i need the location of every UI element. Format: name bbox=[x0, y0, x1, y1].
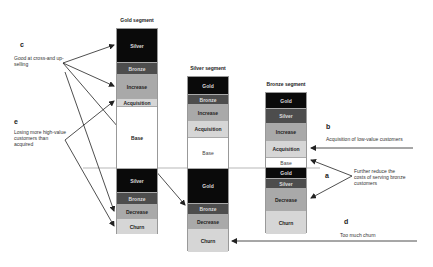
annotation-b-letter: b bbox=[326, 123, 330, 130]
annotation-d-text: Too much churn bbox=[340, 232, 376, 238]
block-churn: Churn bbox=[266, 211, 306, 234]
silver-segment-title: Silver segment bbox=[178, 65, 238, 71]
annotation-e-text: Losing more high-value customers than ac… bbox=[14, 129, 66, 147]
block-bronze: Bronze bbox=[188, 95, 228, 105]
annotation-a-letter: a bbox=[325, 172, 329, 179]
block-silver-lost: Silver bbox=[266, 179, 306, 189]
bronze-segment-title: Bronze segment bbox=[256, 81, 316, 87]
block-silver: Silver bbox=[117, 29, 157, 63]
block-gold: Gold bbox=[266, 93, 306, 109]
annotation-c-letter: c bbox=[20, 41, 24, 48]
silver-segment-column: Gold Bronze Increase Acquisition Base Go… bbox=[187, 76, 229, 251]
block-bronze-lost: Bronze bbox=[117, 193, 157, 205]
block-acquisition: Acquisition bbox=[188, 121, 228, 138]
block-bronze: Bronze bbox=[117, 63, 157, 75]
block-gold: Gold bbox=[188, 77, 228, 95]
bronze-segment-column: Gold Silver Increase Acquisition Base Go… bbox=[265, 92, 307, 233]
block-churn: Churn bbox=[188, 229, 228, 252]
block-base: Base bbox=[188, 138, 228, 169]
block-decrease: Decrease bbox=[266, 189, 306, 211]
annotation-b-text: Acquisition of low-value customers bbox=[326, 136, 433, 142]
annotation-c-text: Good at cross-and up-selling bbox=[14, 55, 66, 67]
annotation-d-letter: d bbox=[344, 218, 348, 225]
gold-segment-title: Gold segment bbox=[107, 17, 167, 23]
block-base: Base bbox=[266, 158, 306, 168]
customer-segment-flow-diagram: Gold segment Silver Bronze Increase Acqu… bbox=[0, 0, 433, 267]
block-bronze-lost: Bronze bbox=[188, 204, 228, 215]
block-gold-lost: Gold bbox=[188, 169, 228, 204]
block-silver: Silver bbox=[266, 109, 306, 124]
block-increase: Increase bbox=[266, 124, 306, 141]
block-decrease: Decrease bbox=[117, 205, 157, 219]
block-increase: Increase bbox=[117, 75, 157, 99]
block-gold-lost: Gold bbox=[266, 168, 306, 179]
block-silver-lost: Silver bbox=[117, 169, 157, 193]
block-acquisition: Acquisition bbox=[266, 141, 306, 158]
annotation-e-letter: e bbox=[14, 118, 18, 125]
block-increase: Increase bbox=[188, 105, 228, 121]
annotation-a-text: Further reduce the costs of serving bron… bbox=[354, 168, 406, 186]
block-base: Base bbox=[117, 107, 157, 169]
block-churn: Churn bbox=[117, 219, 157, 234]
gold-segment-column: Silver Bronze Increase Acquisition Base … bbox=[116, 28, 158, 234]
block-acquisition: Acquisition bbox=[117, 99, 157, 107]
block-decrease: Decrease bbox=[188, 215, 228, 229]
